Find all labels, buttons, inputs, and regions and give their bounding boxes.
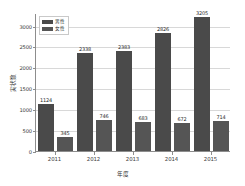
x-tick-label: 2013: [126, 156, 139, 162]
bar-value-label: 2826: [157, 26, 169, 32]
x-tick-mark: [55, 152, 56, 155]
bar: 714: [213, 121, 229, 151]
y-tick-label: 1500: [19, 86, 32, 92]
chart-legend: 男性女性: [39, 16, 69, 35]
bar-value-label: 2383: [118, 44, 130, 50]
y-tick-mark: [33, 89, 36, 90]
y-tick-mark: [33, 110, 36, 111]
legend-label: 男性: [55, 19, 65, 25]
bar: 345: [57, 137, 73, 151]
legend-swatch: [42, 20, 53, 24]
y-tick-label: 3000: [19, 24, 32, 30]
bar: 2383: [116, 51, 132, 151]
x-axis-title: 年度: [0, 170, 245, 178]
bar-value-label: 345: [61, 130, 70, 136]
bar-value-label: 3205: [196, 10, 208, 16]
y-tick-mark: [33, 68, 36, 69]
y-tick-label: 1000: [19, 107, 32, 113]
y-tick-mark: [33, 47, 36, 48]
bar: 3205: [194, 17, 210, 151]
bar: 1124: [38, 104, 54, 151]
x-tick-mark: [211, 152, 212, 155]
x-tick-mark: [94, 152, 95, 155]
bar-chart-figure: 実状数 050010001500200025003000112434523387…: [0, 0, 245, 186]
bar-value-label: 714: [217, 114, 226, 120]
bar: 746: [96, 120, 112, 151]
bar: 683: [135, 122, 151, 151]
legend-label: 女性: [55, 26, 65, 32]
bar: 672: [174, 123, 190, 151]
legend-item: 女性: [42, 26, 65, 32]
y-tick-label: 0: [29, 149, 32, 155]
y-tick-label: 500: [23, 128, 32, 134]
legend-swatch: [42, 27, 53, 31]
x-tick-mark: [133, 152, 134, 155]
y-tick-label: 2500: [19, 44, 32, 50]
x-tick-label: 2015: [204, 156, 217, 162]
y-axis-title: 実状数: [9, 74, 17, 92]
y-tick-label: 2000: [19, 65, 32, 71]
bar-value-label: 746: [100, 113, 109, 119]
x-tick-mark: [172, 152, 173, 155]
bar-value-label: 2338: [79, 46, 91, 52]
bar-value-label: 1124: [40, 97, 52, 103]
bar: 2338: [77, 53, 93, 151]
y-tick-mark: [33, 152, 36, 153]
x-tick-label: 2014: [165, 156, 178, 162]
y-tick-mark: [33, 27, 36, 28]
bar-value-label: 683: [139, 115, 148, 121]
bar-value-label: 672: [178, 116, 187, 122]
x-tick-label: 2012: [87, 156, 100, 162]
bar: 2826: [155, 33, 171, 151]
x-tick-label: 2011: [48, 156, 61, 162]
y-tick-mark: [33, 131, 36, 132]
legend-item: 男性: [42, 19, 65, 25]
